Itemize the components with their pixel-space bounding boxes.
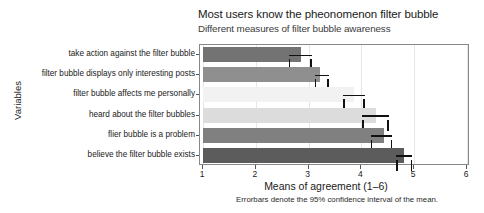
y-axis-tick-mark xyxy=(196,135,199,136)
x-axis-tick-label: 2 xyxy=(252,169,257,179)
y-axis-tick-mark xyxy=(196,115,199,116)
x-axis-tick-label: 4 xyxy=(358,169,363,179)
bar-row xyxy=(200,126,470,146)
bar xyxy=(203,87,354,102)
x-axis-title: Means of agreement (1–6) xyxy=(202,180,450,192)
bar-row xyxy=(200,106,470,126)
y-axis-tick-label: flier bubble is a problem xyxy=(30,130,195,140)
bar-row xyxy=(200,65,470,85)
bar xyxy=(203,148,404,163)
bar xyxy=(203,47,301,62)
x-axis-tick-label: 5 xyxy=(411,169,416,179)
chart-figure: Most users know the pheonomenon filter b… xyxy=(0,0,484,213)
bar xyxy=(203,108,376,123)
bar-row xyxy=(200,45,470,65)
x-axis-tick-label: 6 xyxy=(464,169,469,179)
error-bar xyxy=(396,155,412,157)
bar xyxy=(203,67,320,82)
error-bar xyxy=(343,95,364,97)
y-axis-tick-mark xyxy=(196,54,199,55)
chart-title: Most users know the pheonomenon filter b… xyxy=(198,8,438,20)
y-axis-title: Variables xyxy=(12,66,23,136)
chart-caption: Errorbars denote the 95% confidence inte… xyxy=(202,195,472,204)
error-bar xyxy=(289,55,312,57)
y-axis-tick-mark xyxy=(196,74,199,75)
chart-subtitle: Different measures of filter bubble awar… xyxy=(198,23,390,34)
bar xyxy=(203,128,384,143)
y-axis-tick-label: filter bubble affects me personally xyxy=(30,89,195,99)
bar-row xyxy=(200,146,470,166)
y-axis-tick-label: heard about the filter bubbles xyxy=(30,110,195,120)
y-axis-tick-mark xyxy=(196,155,199,156)
bar-row xyxy=(200,85,470,105)
x-axis-tick-label: 1 xyxy=(200,169,205,179)
plot-area xyxy=(199,44,469,165)
error-bar xyxy=(371,135,392,137)
x-axis-tick-label: 3 xyxy=(305,169,310,179)
error-bar-cap-low xyxy=(396,160,398,171)
y-axis-tick-label: take action against the filter bubble xyxy=(30,49,195,59)
error-bar xyxy=(315,75,329,77)
error-bar xyxy=(362,115,388,117)
y-axis-tick-label: believe the filter bubble exists xyxy=(30,150,195,160)
y-axis-tick-mark xyxy=(196,94,199,95)
y-axis-tick-label: filter bubble displays only interesting … xyxy=(30,69,195,79)
